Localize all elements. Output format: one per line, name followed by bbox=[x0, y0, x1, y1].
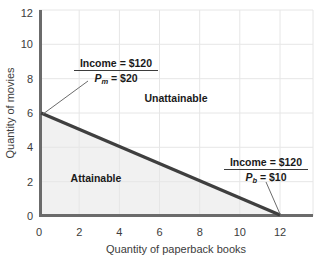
y-tick-label-0: 0 bbox=[27, 210, 33, 222]
y-axis-title: Quantity of movies bbox=[4, 67, 16, 159]
x-tick-label-0: 0 bbox=[36, 226, 42, 238]
x-tick-label-6: 6 bbox=[156, 226, 162, 238]
y-tick-label-10: 10 bbox=[21, 38, 33, 50]
y-tick-label-8: 8 bbox=[27, 73, 33, 85]
formula-top-numerator: Income = $120 bbox=[80, 57, 152, 69]
y-tick-label-2: 2 bbox=[27, 176, 33, 188]
x-tick-label-2: 2 bbox=[76, 226, 82, 238]
x-tick-label-8: 8 bbox=[197, 226, 203, 238]
y-tick-label-4: 4 bbox=[27, 141, 33, 153]
y-tick-label-12: 12 bbox=[21, 7, 33, 19]
chart-canvas: 12 10 8 6 4 2 0 0 2 4 6 8 10 12 Quantity… bbox=[0, 0, 328, 259]
formula-top-price: = $20 bbox=[108, 72, 138, 84]
attainable-label: Attainable bbox=[71, 172, 122, 184]
budget-constraint-chart: 12 10 8 6 4 2 0 0 2 4 6 8 10 12 Quantity… bbox=[0, 0, 328, 259]
x-tick-label-12: 12 bbox=[274, 226, 286, 238]
y-tick-label-6: 6 bbox=[27, 107, 33, 119]
x-axis-title: Quantity of paperback books bbox=[106, 243, 247, 255]
formula-bottom-numerator: Income = $120 bbox=[230, 156, 302, 168]
formula-bottom-price: = $10 bbox=[257, 171, 287, 183]
x-tick-label-4: 4 bbox=[116, 226, 122, 238]
unattainable-label: Unattainable bbox=[144, 92, 207, 104]
x-tick-label-10: 10 bbox=[234, 226, 246, 238]
